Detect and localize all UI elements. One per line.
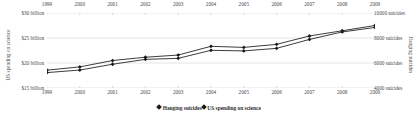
bottom-axis-tick-labels: 1999200020012002200320042005200620072008…	[0, 89, 418, 97]
x-axis-tick-label-top: 2001	[101, 1, 125, 7]
data-point-marker	[176, 56, 180, 60]
data-point-marker	[78, 65, 82, 69]
data-point-marker	[209, 44, 213, 48]
x-axis-tick-label-bottom: 2008	[330, 89, 354, 95]
legend-item[interactable]: Hanging suicides	[157, 104, 202, 111]
data-point-marker	[111, 59, 115, 63]
top-axis-tick-labels: 1999200020012002200320042005200620072008…	[0, 1, 418, 9]
x-axis-tick-label-bottom: 2002	[133, 89, 157, 95]
data-point-marker	[242, 49, 246, 53]
x-axis-tick-label-bottom: 2009	[363, 89, 387, 95]
x-axis-tick-label-bottom: 2004	[199, 89, 223, 95]
left-axis-tick-label: $20 billion	[8, 60, 44, 66]
plot-svg	[47, 13, 375, 88]
x-axis-tick-label-bottom: 1999	[35, 89, 59, 95]
data-point-marker	[144, 55, 148, 59]
data-point-marker	[308, 34, 312, 38]
right-axis-tick-label: 6000 suicides	[374, 60, 410, 66]
legend-label: US spending on science	[207, 105, 260, 111]
legend-diamond-marker-icon	[156, 104, 162, 110]
legend-item[interactable]: US spending on science	[202, 104, 261, 111]
chart-legend: Hanging suicidesUS spending on science	[0, 104, 418, 111]
x-axis-tick-label-top: 2006	[265, 1, 289, 7]
x-axis-tick-label-top: 2002	[133, 1, 157, 7]
data-point-marker	[47, 68, 49, 72]
x-axis-tick-label-top: 2000	[68, 1, 92, 7]
data-point-marker	[209, 48, 213, 52]
x-axis-tick-label-bottom: 2001	[101, 89, 125, 95]
data-point-marker	[275, 42, 279, 46]
x-axis-tick-label-top: 2004	[199, 1, 223, 7]
x-axis-tick-label-top: 2005	[232, 1, 256, 7]
x-axis-tick-label-top: 1999	[35, 1, 59, 7]
left-axis-tick-label: $25 billion	[8, 35, 44, 41]
x-axis-tick-label-bottom: 2006	[265, 89, 289, 95]
x-axis-tick-label-bottom: 2000	[68, 89, 92, 95]
correlation-line-chart: US spending on science Hanging suicides …	[0, 0, 418, 119]
legend-label: Hanging suicides	[163, 105, 202, 111]
plot-area	[47, 13, 375, 88]
right-axis-tick-label: 10000 suicides	[374, 10, 410, 16]
x-axis-tick-label-top: 2007	[297, 1, 321, 7]
data-point-marker	[176, 53, 180, 57]
left-axis-tick-label: $30 billion	[8, 10, 44, 16]
x-axis-tick-label-bottom: 2007	[297, 89, 321, 95]
x-axis-tick-label-bottom: 2003	[166, 89, 190, 95]
x-axis-tick-label-top: 2008	[330, 1, 354, 7]
x-axis-tick-label-top: 2009	[363, 1, 387, 7]
right-axis-tick-label: 8000 suicides	[374, 35, 410, 41]
x-axis-tick-label-bottom: 2005	[232, 89, 256, 95]
data-point-marker	[275, 46, 279, 50]
x-axis-tick-label-top: 2003	[166, 1, 190, 7]
data-point-marker	[242, 46, 246, 50]
legend-diamond-marker-icon	[201, 104, 207, 110]
